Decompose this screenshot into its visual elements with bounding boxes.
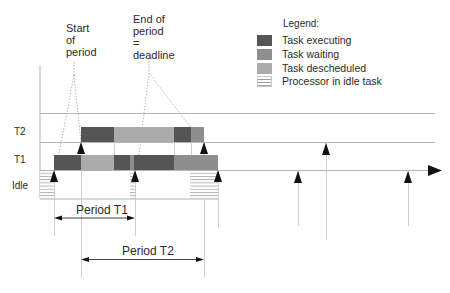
period-t2-label: Period T2 (122, 245, 174, 257)
end-of-period-annotation: End of period = deadline (133, 13, 175, 61)
legend-item-idle: Processor in idle task (257, 75, 382, 87)
t2-release-arrow-icon (200, 142, 208, 154)
idle-row (40, 171, 218, 199)
idle-segment (40, 171, 54, 199)
legend-label: Processor in idle task (282, 75, 382, 87)
t2-executing-segment (174, 127, 191, 142)
t1-release-arrow-icon (404, 171, 412, 183)
legend-item-waiting: Task waiting (257, 48, 339, 60)
legend-item-descheduled: Task descheduled (257, 62, 366, 74)
t2-release-arrow-icon (77, 142, 85, 154)
t1-executing-segment (114, 155, 130, 170)
idle-segment (190, 171, 218, 199)
legend-label: Task descheduled (282, 62, 366, 74)
t1-descheduled-segment (81, 155, 114, 170)
legend-label: Task executing (282, 34, 351, 46)
t1-release-arrow-icon (294, 171, 302, 183)
row-label-t2: T2 (14, 126, 26, 137)
start-of-period-annotation: Start of period (66, 22, 97, 58)
t1-timeline-bar (54, 155, 218, 170)
t2-executing-segment (81, 127, 114, 142)
t1-waiting-segment (130, 155, 134, 170)
legend-item-executing: Task executing (257, 34, 351, 46)
time-axis-arrow-icon (428, 165, 442, 176)
descheduled-swatch-icon (257, 63, 272, 74)
t2-waiting-segment (191, 127, 204, 142)
executing-swatch-icon (257, 35, 272, 46)
t1-executing-segment (54, 155, 81, 170)
row-label-idle: Idle (12, 180, 28, 191)
t2-timeline-bar (81, 127, 204, 142)
row-label-t1: T1 (14, 154, 26, 165)
idle-hatch-swatch-icon (257, 76, 272, 87)
legend-title: Legend: (283, 18, 319, 29)
waiting-swatch-icon (257, 49, 272, 60)
t1-executing-segment (134, 155, 174, 170)
t1-waiting-segment (174, 155, 218, 170)
legend-label: Task waiting (282, 48, 339, 60)
period-t1-label: Period T1 (76, 204, 128, 216)
t2-release-arrow-icon (322, 143, 330, 155)
t2-descheduled-segment (114, 127, 174, 142)
